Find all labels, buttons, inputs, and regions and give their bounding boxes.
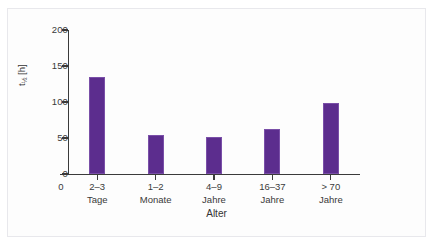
bar — [148, 135, 164, 174]
y-tick-label: 150 — [28, 60, 68, 71]
bar — [323, 103, 339, 174]
y-tick-label-wrap: 200 — [18, 24, 68, 25]
x-tick-label: > 70Jahre — [296, 181, 366, 206]
x-tick-label-line1: 4–9 — [206, 181, 222, 192]
x-tick-label-line1: 1–2 — [148, 181, 164, 192]
x-tick-label-line1: 2–3 — [89, 181, 105, 192]
bar-chart-plot-area: 050100150200 2–3Tage1–2Monate4–9Jahre16–… — [0, 0, 433, 245]
x-axis-line — [60, 174, 360, 175]
x-tick-mark — [213, 175, 214, 180]
x-axis-origin-label: 0 — [52, 181, 70, 192]
x-tick-label-line1: > 70 — [321, 181, 340, 192]
bar — [206, 137, 222, 174]
y-axis-title-base: t — [16, 83, 27, 86]
x-tick-label-line2: Jahre — [296, 194, 366, 207]
y-axis-title: t½ [h] — [16, 64, 27, 86]
y-tick-label-wrap: 50 — [18, 132, 68, 133]
y-tick-label: 0 — [28, 168, 68, 179]
y-tick-label: 50 — [28, 132, 68, 143]
y-axis-title-unit: [h] — [16, 64, 27, 77]
y-axis-line — [68, 30, 69, 175]
y-tick-label-wrap: 150 — [18, 60, 68, 61]
y-tick-label: 200 — [28, 24, 68, 35]
y-tick-label-wrap: 100 — [18, 96, 68, 97]
x-tick-mark — [97, 175, 98, 180]
x-axis-title: Alter — [0, 208, 433, 219]
y-axis-title-subscript: ½ — [21, 78, 28, 84]
bar — [264, 129, 280, 174]
x-tick-mark — [272, 175, 273, 180]
x-tick-mark — [155, 175, 156, 180]
y-tick-label-wrap: 0 — [18, 168, 68, 169]
y-tick-label: 100 — [28, 96, 68, 107]
x-tick-label-line1: 16–37 — [259, 181, 285, 192]
x-tick-mark — [330, 175, 331, 180]
figure-root: 050100150200 2–3Tage1–2Monate4–9Jahre16–… — [0, 0, 433, 245]
bar — [89, 77, 105, 174]
